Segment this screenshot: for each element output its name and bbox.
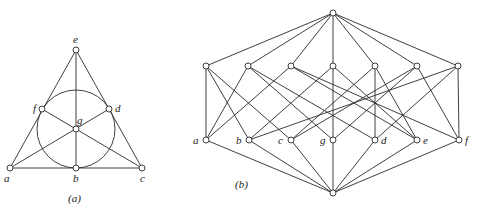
point-node bbox=[7, 165, 13, 171]
point-label: g bbox=[77, 114, 83, 126]
point-label: b bbox=[236, 134, 242, 146]
line-node bbox=[455, 63, 461, 69]
line-node bbox=[330, 63, 336, 69]
line-node bbox=[372, 63, 378, 69]
lattice-edge bbox=[249, 140, 333, 193]
point-node bbox=[414, 137, 420, 143]
lattice-edge bbox=[206, 13, 333, 66]
line-node bbox=[288, 63, 294, 69]
point-node bbox=[203, 137, 209, 143]
point-label: e bbox=[423, 134, 428, 146]
point-label: d bbox=[115, 102, 121, 114]
point-node bbox=[456, 137, 462, 143]
lattice-edge bbox=[248, 66, 375, 140]
point-label: e bbox=[73, 33, 78, 45]
bottom-node bbox=[330, 190, 336, 196]
point-node bbox=[73, 47, 79, 53]
line-node bbox=[245, 63, 251, 69]
lattice-edge bbox=[248, 13, 333, 66]
fano-line bbox=[42, 109, 142, 168]
point-node bbox=[288, 137, 294, 143]
point-node bbox=[73, 126, 79, 132]
point-node bbox=[372, 137, 378, 143]
point-label: d bbox=[381, 134, 387, 146]
lattice-edge bbox=[333, 140, 375, 193]
point-label: g bbox=[320, 134, 326, 146]
caption-b: (b) bbox=[235, 178, 248, 191]
point-node bbox=[330, 137, 336, 143]
diagram-canvas: efdgabc(a) abcgdef(b) bbox=[0, 0, 484, 208]
lattice-edge bbox=[375, 66, 417, 140]
point-node bbox=[139, 165, 145, 171]
lattice-edge bbox=[333, 140, 459, 193]
caption-a: (a) bbox=[68, 192, 81, 205]
lattice-edge bbox=[333, 13, 458, 66]
point-label: a bbox=[4, 172, 10, 184]
point-label: c bbox=[140, 172, 145, 184]
point-label: f bbox=[33, 102, 38, 114]
point-label: c bbox=[278, 134, 283, 146]
fano-line bbox=[10, 109, 109, 168]
fano-lattice-figure: abcgdef(b) bbox=[193, 10, 470, 196]
line-node bbox=[414, 63, 420, 69]
lattice-edge bbox=[333, 13, 417, 66]
lattice-edge bbox=[333, 140, 417, 193]
point-label: b bbox=[73, 172, 79, 184]
point-node bbox=[246, 137, 252, 143]
lattice-edge bbox=[291, 13, 333, 66]
lattice-edge bbox=[458, 66, 459, 140]
point-label: f bbox=[465, 134, 470, 146]
point-node bbox=[39, 106, 45, 112]
lattice-edge bbox=[291, 140, 333, 193]
lattice-edge bbox=[417, 66, 459, 140]
fano-plane-figure: efdgabc(a) bbox=[4, 33, 145, 205]
point-node bbox=[106, 106, 112, 112]
point-node bbox=[73, 165, 79, 171]
point-label: a bbox=[193, 134, 199, 146]
line-node bbox=[203, 63, 209, 69]
lattice-edge bbox=[206, 140, 333, 193]
lattice-edge bbox=[333, 13, 375, 66]
lattice-edge bbox=[375, 66, 458, 140]
lattice-edge bbox=[249, 66, 458, 140]
top-node bbox=[330, 10, 336, 16]
